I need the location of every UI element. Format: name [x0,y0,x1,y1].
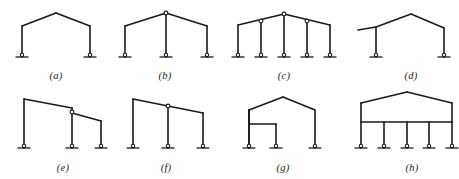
member-b-right-rafter [166,13,207,26]
support-h-support-4 [423,144,436,148]
joint-e-step-joint [70,110,74,114]
support-pin-circle [201,144,204,147]
member-e-upper-rafter [24,99,72,108]
support-pin-circle [88,53,91,56]
support-g-support-right [309,144,322,148]
frame-e-stepped-shed-frame [18,99,108,148]
portal-frame-types-figure: (a)(b)(c)(d)(e)(f)(g)(h) [0,0,459,179]
caption-d: (d) [405,70,418,81]
member-b-left-rafter [125,13,166,26]
member-d-left-overhang [358,27,376,30]
support-c-support-1 [232,53,245,57]
support-f-support-right [197,144,210,148]
caption-c: (c) [278,70,290,81]
caption-h: (h) [406,162,419,173]
support-pin-circle [274,144,277,147]
support-e-support-right [95,144,108,148]
support-pin-circle [374,53,377,56]
support-pin-circle [247,144,250,147]
support-h-support-3 [401,144,414,148]
member-g-left-rafter [249,97,283,110]
support-b-support-right [201,53,214,57]
caption-g: (g) [277,162,290,173]
support-pin-circle [382,144,385,147]
support-pin-circle [450,144,453,147]
support-pin-circle [70,144,73,147]
support-pin-circle [305,53,308,56]
support-pin-circle [164,53,167,56]
frame-b-two-bay-gable-frame-center-column [119,11,214,57]
support-pin-circle [313,144,316,147]
member-a-right-rafter [56,13,90,26]
support-pin-circle [205,53,208,56]
support-pin-circle [236,53,239,56]
frame-d-gable-frame-with-left-overhang [358,14,451,57]
caption-b: (b) [159,70,172,81]
support-g-support-mid [270,144,283,148]
support-pin-circle [99,144,102,147]
support-pin-circle [166,144,169,147]
support-d-support-left [370,53,383,57]
support-f-support-left [127,144,140,148]
frame-f-two-bay-sloped-shed-frame [127,99,210,148]
member-d-right-rafter [411,14,444,28]
member-d-left-rafter [376,14,411,27]
frame-g-gable-frame-with-low-side-bay [243,97,322,148]
support-pin-circle [359,144,362,147]
support-pin-circle [259,53,262,56]
support-b-support-center [160,53,173,57]
caption-f: (f) [161,162,172,173]
support-h-support-5 [446,144,459,148]
member-h-right-rafter [407,92,452,103]
frame-h-gable-roof-frame-on-tie-beam [355,92,459,148]
support-d-support-right [438,53,451,57]
support-pin-circle [328,53,331,56]
member-a-left-rafter [22,13,56,26]
member-e-lower-rafter [72,113,101,121]
member-g-right-rafter [283,97,315,110]
support-pin-circle [22,144,25,147]
frames-diagram [0,0,459,179]
support-pin-circle [427,144,430,147]
support-pin-circle [20,53,23,56]
support-c-support-3 [278,53,291,57]
support-e-support-left [18,144,31,148]
frame-a-single-bay-gable-frame [16,13,97,57]
joint-c-joint-column-2-top [259,19,263,23]
support-h-support-2 [378,144,391,148]
support-f-support-center [162,144,175,148]
support-a-support-left [16,53,29,57]
caption-e: (e) [57,162,69,173]
support-h-support-1 [355,144,368,148]
support-pin-circle [282,53,285,56]
caption-a: (a) [50,70,63,81]
support-pin-circle [123,53,126,56]
joint-c-apex-pin [282,12,286,16]
joint-f-center-column-top-joint [166,104,170,108]
support-pin-circle [442,53,445,56]
joint-b-apex-pin [164,11,168,15]
support-e-support-mid [66,144,79,148]
support-c-support-2 [255,53,268,57]
support-pin-circle [405,144,408,147]
support-g-support-left [243,144,256,148]
support-c-support-4 [301,53,314,57]
frame-c-four-bay-gable-frame-multiple-columns [232,12,337,57]
support-a-support-right [84,53,97,57]
support-pin-circle [131,144,134,147]
member-h-left-rafter [361,92,407,103]
joint-c-joint-column-4-top [305,19,309,23]
support-c-support-5 [324,53,337,57]
support-b-support-left [119,53,132,57]
